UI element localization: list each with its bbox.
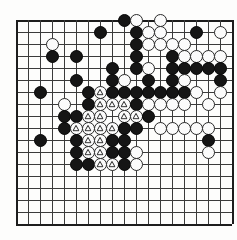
white-stone[interactable] (154, 38, 167, 51)
white-stone[interactable] (214, 26, 227, 39)
white-stone[interactable] (94, 146, 107, 159)
white-stone[interactable] (130, 14, 143, 27)
white-stone[interactable] (142, 26, 155, 39)
white-stone[interactable] (214, 50, 227, 63)
black-stone[interactable] (106, 146, 119, 159)
black-stone[interactable] (106, 134, 119, 147)
black-stone[interactable] (166, 50, 179, 63)
black-stone[interactable] (166, 62, 179, 75)
black-stone[interactable] (70, 50, 83, 63)
white-stone[interactable] (178, 98, 191, 111)
black-stone[interactable] (82, 98, 95, 111)
white-stone[interactable] (166, 98, 179, 111)
black-stone[interactable] (202, 62, 215, 75)
black-stone[interactable] (130, 62, 143, 75)
white-stone[interactable] (154, 98, 167, 111)
white-stone[interactable] (94, 98, 107, 111)
white-stone[interactable] (130, 110, 143, 123)
black-stone[interactable] (130, 122, 143, 135)
black-stone[interactable] (202, 134, 215, 147)
white-stone[interactable] (178, 50, 191, 63)
black-stone[interactable] (142, 110, 155, 123)
white-stone[interactable] (82, 134, 95, 147)
white-stone[interactable] (106, 158, 119, 171)
black-stone[interactable] (130, 50, 143, 63)
white-stone[interactable] (94, 110, 107, 123)
white-stone[interactable] (214, 86, 227, 99)
white-stone[interactable] (106, 98, 119, 111)
black-stone[interactable] (118, 158, 131, 171)
black-stone[interactable] (190, 26, 203, 39)
white-stone[interactable] (94, 86, 107, 99)
black-stone[interactable] (46, 50, 59, 63)
white-stone[interactable] (154, 14, 167, 27)
white-stone[interactable] (94, 158, 107, 171)
black-stone[interactable] (70, 158, 83, 171)
white-stone[interactable] (154, 122, 167, 135)
goban-grid[interactable] (0, 0, 237, 240)
black-stone[interactable] (166, 86, 179, 99)
black-stone[interactable] (142, 86, 155, 99)
white-stone[interactable] (94, 122, 107, 135)
black-stone[interactable] (118, 86, 131, 99)
white-stone[interactable] (190, 122, 203, 135)
black-stone[interactable] (58, 110, 71, 123)
white-stone[interactable] (190, 86, 203, 99)
black-stone[interactable] (130, 38, 143, 51)
white-stone[interactable] (166, 122, 179, 135)
white-stone[interactable] (70, 122, 83, 135)
white-stone[interactable] (154, 26, 167, 39)
black-stone[interactable] (130, 98, 143, 111)
black-stone[interactable] (154, 86, 167, 99)
black-stone[interactable] (70, 74, 83, 87)
black-stone[interactable] (214, 62, 227, 75)
black-stone[interactable] (214, 74, 227, 87)
white-stone[interactable] (190, 50, 203, 63)
black-stone[interactable] (118, 134, 131, 147)
black-stone[interactable] (106, 86, 119, 99)
white-stone[interactable] (118, 110, 131, 123)
white-stone[interactable] (202, 146, 215, 159)
white-stone[interactable] (166, 38, 179, 51)
white-stone[interactable] (178, 38, 191, 51)
white-stone[interactable] (178, 74, 191, 87)
black-stone[interactable] (118, 146, 131, 159)
white-stone[interactable] (142, 98, 155, 111)
black-stone[interactable] (82, 158, 95, 171)
black-stone[interactable] (118, 14, 131, 27)
white-stone[interactable] (202, 98, 215, 111)
white-stone[interactable] (178, 122, 191, 135)
black-stone[interactable] (166, 74, 179, 87)
black-stone[interactable] (178, 86, 191, 99)
white-stone[interactable] (94, 134, 107, 147)
black-stone[interactable] (82, 86, 95, 99)
black-stone[interactable] (34, 86, 47, 99)
white-stone[interactable] (82, 146, 95, 159)
black-stone[interactable] (130, 86, 143, 99)
white-stone[interactable] (46, 38, 59, 51)
white-stone[interactable] (142, 38, 155, 51)
white-stone[interactable] (118, 74, 131, 87)
white-stone[interactable] (58, 98, 71, 111)
white-stone[interactable] (130, 146, 143, 159)
black-stone[interactable] (130, 26, 143, 39)
black-stone[interactable] (58, 122, 71, 135)
black-stone[interactable] (106, 62, 119, 75)
black-stone[interactable] (70, 134, 83, 147)
white-stone[interactable] (106, 122, 119, 135)
black-stone[interactable] (178, 62, 191, 75)
white-stone[interactable] (118, 98, 131, 111)
black-stone[interactable] (106, 74, 119, 87)
white-stone[interactable] (142, 62, 155, 75)
white-stone[interactable] (202, 50, 215, 63)
white-stone[interactable] (82, 110, 95, 123)
white-stone[interactable] (130, 158, 143, 171)
white-stone[interactable] (202, 122, 215, 135)
black-stone[interactable] (190, 62, 203, 75)
black-stone[interactable] (70, 146, 83, 159)
black-stone[interactable] (142, 74, 155, 87)
black-stone[interactable] (34, 134, 47, 147)
black-stone[interactable] (118, 122, 131, 135)
white-stone[interactable] (82, 122, 95, 135)
black-stone[interactable] (94, 26, 107, 39)
